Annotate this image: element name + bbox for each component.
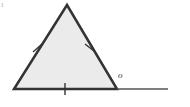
exterior-angle-label: o (118, 71, 123, 80)
triangle-shape (14, 5, 117, 89)
geometry-figure: o ı (0, 0, 190, 107)
corner-scan-artifact: ı (1, 0, 4, 9)
triangle-diagram-canvas (0, 0, 190, 107)
